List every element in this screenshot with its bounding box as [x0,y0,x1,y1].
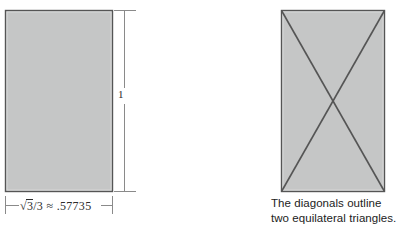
width-label-approx: ≈ .57735 [46,199,91,213]
left-rectangle [6,11,113,192]
radical-group: √3 [20,198,33,213]
radical-sign: √ [20,199,27,213]
right-panel [282,11,385,192]
diagonals-caption-line-1: The diagonals outline [271,196,396,211]
diagonals-caption-line-2: two equilateral triangles. [271,211,396,226]
radical-vinculum [26,199,34,200]
width-label-rest: /3 [33,199,43,213]
left-panel [6,11,137,215]
width-dimension-label: √3/3 ≈ .57735 [20,198,91,213]
height-dimension-label: 1 [118,88,124,101]
radicand: 3 [27,199,33,213]
diagonals-caption: The diagonals outline two equilateral tr… [271,196,396,227]
